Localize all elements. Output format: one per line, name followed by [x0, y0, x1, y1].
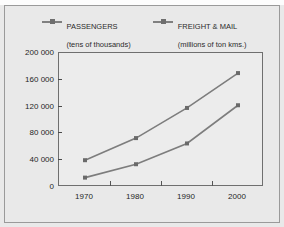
data-point-marker [185, 106, 189, 110]
y-tick-mark [58, 79, 62, 80]
x-tick-label: 2000 [228, 192, 246, 201]
y-tick-mark [58, 132, 62, 133]
data-point-marker [236, 71, 240, 75]
x-tick-label: 1990 [177, 192, 195, 201]
series-line [85, 73, 238, 160]
y-tick-label: 0 [50, 182, 54, 191]
data-point-marker [185, 141, 189, 145]
data-point-marker [83, 158, 87, 162]
plot-area [58, 52, 263, 186]
x-tick-label: 1970 [75, 192, 93, 201]
y-axis-tick-labels: 040 00080 000120 000160 000200 000 [9, 52, 54, 186]
series-lines-svg [59, 53, 264, 187]
y-tick-label: 200 000 [25, 48, 54, 57]
data-point-marker [134, 162, 138, 166]
y-tick-label: 160 000 [25, 74, 54, 83]
y-tick-mark [58, 159, 62, 160]
x-tick-mark [161, 181, 162, 186]
data-point-marker [236, 103, 240, 107]
x-tick-mark [212, 181, 213, 186]
y-tick-label: 80 000 [30, 128, 54, 137]
plot-container: 040 00080 000120 000160 000200 000 19701… [5, 6, 281, 224]
y-tick-label: 120 000 [25, 101, 54, 110]
data-point-marker [134, 136, 138, 140]
chart-figure: PASSENGERS (tens of thousands) FREIGHT &… [0, 0, 284, 227]
y-tick-label: 40 000 [30, 155, 54, 164]
series-line [85, 105, 238, 177]
figure-frame: PASSENGERS (tens of thousands) FREIGHT &… [4, 5, 280, 223]
data-point-marker [83, 176, 87, 180]
x-tick-label: 1980 [126, 192, 144, 201]
y-tick-mark [58, 106, 62, 107]
x-tick-mark [110, 181, 111, 186]
